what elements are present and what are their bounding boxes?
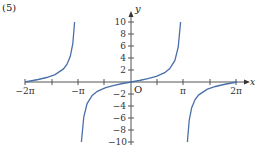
y-axis-label: y [135,4,141,14]
y-tick-label: −8 [108,126,126,135]
x-tick-label: −π [63,87,93,96]
y-tick-label: −4 [108,102,126,111]
x-tick-label: −2π [10,87,40,96]
y-tick-label: 4 [108,54,126,63]
y-tick-label: −10 [108,138,126,147]
y-tick-label: 10 [108,18,126,27]
x-tick-label: 2π [221,87,251,96]
origin-label: O [134,85,142,95]
y-tick-label: −2 [108,90,126,99]
x-axis-label: x [250,77,255,87]
y-tick-label: 2 [108,66,126,75]
x-tick-label: π [168,87,198,96]
y-axis-arrow-icon [129,11,134,17]
curve-branch-1 [25,22,75,82]
y-tick-label: −6 [108,114,126,123]
y-tick-label: 8 [108,30,126,39]
chart-plot [0,0,255,149]
y-tick-label: 6 [108,42,126,51]
